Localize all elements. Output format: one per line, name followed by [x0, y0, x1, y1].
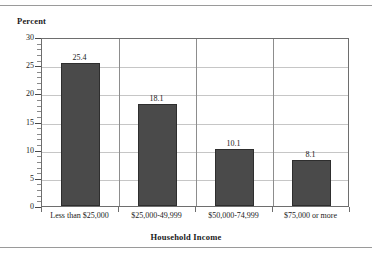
y-tick-label: 5 [10, 175, 34, 183]
x-tick [349, 207, 350, 212]
gridline-vertical [273, 39, 274, 206]
y-tick-label: 15 [10, 119, 34, 127]
y-tick-label-wrap: 10 [6, 147, 34, 155]
bar-value-label: 25.4 [41, 53, 118, 62]
y-tick-label-wrap: 5 [6, 175, 34, 183]
y-tick-label: 0 [10, 203, 34, 211]
x-category-label: $75,000 or more [272, 211, 349, 220]
y-tick-label: 30 [10, 34, 34, 42]
top-divider-rule [0, 5, 372, 6]
x-category-label: Less than $25,000 [41, 211, 118, 220]
y-axis-title: Percent [17, 16, 46, 26]
bar-value-label: 10.1 [195, 139, 272, 148]
bar-value-label: 18.1 [118, 94, 195, 103]
bottom-divider-rule [0, 247, 372, 248]
x-category-label: $50,000-74,999 [195, 211, 272, 220]
bar [61, 63, 100, 206]
y-tick-label: 10 [10, 147, 34, 155]
y-tick-label-wrap: 30 [6, 34, 34, 42]
y-tick-label: 25 [10, 62, 34, 70]
x-category-label: $25,000-49,999 [118, 211, 195, 220]
bar [215, 149, 254, 206]
gridline-vertical [196, 39, 197, 206]
y-tick-label: 20 [10, 90, 34, 98]
y-tick-label-wrap: 25 [6, 62, 34, 70]
bar [138, 104, 177, 206]
y-tick-label-wrap: 0 [6, 203, 34, 211]
bar [292, 160, 331, 206]
bar-chart-figure: Percent Household Income 051015202530 25… [0, 0, 372, 254]
x-axis-title: Household Income [0, 232, 372, 242]
bar-value-label: 8.1 [272, 150, 349, 159]
gridline-vertical [119, 39, 120, 206]
y-tick-label-wrap: 20 [6, 90, 34, 98]
plot-area [41, 38, 349, 207]
y-tick-label-wrap: 15 [6, 119, 34, 127]
